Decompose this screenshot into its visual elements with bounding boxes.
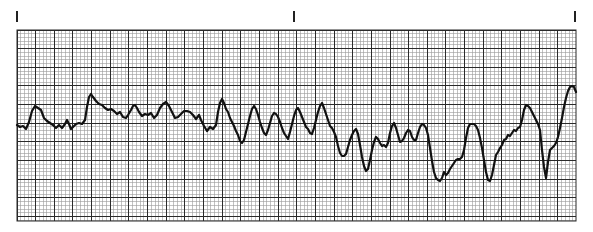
ecg-strip-chart	[0, 0, 593, 232]
